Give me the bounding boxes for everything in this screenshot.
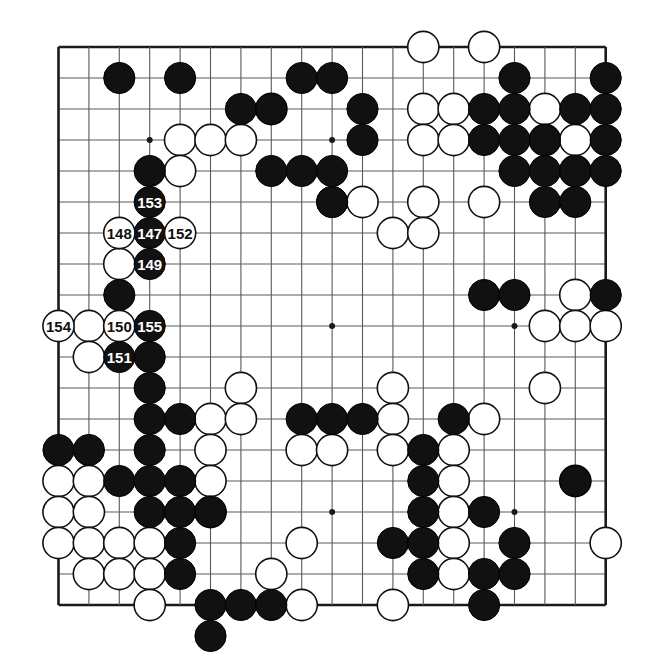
numbered-move-150[interactable]: 150 xyxy=(104,310,135,341)
white-stone[interactable] xyxy=(438,93,469,124)
white-stone[interactable] xyxy=(225,372,256,403)
black-stone[interactable] xyxy=(529,186,560,217)
white-stone[interactable] xyxy=(560,310,591,341)
white-stone[interactable] xyxy=(225,124,256,155)
white-stone[interactable] xyxy=(408,217,439,248)
black-stone[interactable] xyxy=(469,496,500,527)
white-stone[interactable] xyxy=(438,124,469,155)
white-stone[interactable] xyxy=(43,527,74,558)
white-stone[interactable] xyxy=(104,248,135,279)
black-stone[interactable] xyxy=(134,434,165,465)
white-stone[interactable] xyxy=(438,558,469,589)
black-stone[interactable] xyxy=(165,496,196,527)
numbered-move-154[interactable]: 154 xyxy=(43,310,74,341)
black-stone[interactable] xyxy=(317,155,348,186)
white-stone[interactable] xyxy=(469,31,500,62)
numbered-move-155[interactable]: 155 xyxy=(134,310,165,341)
black-stone[interactable] xyxy=(347,403,378,434)
white-stone[interactable] xyxy=(408,31,439,62)
white-stone[interactable] xyxy=(377,403,408,434)
white-stone[interactable] xyxy=(73,527,104,558)
black-stone[interactable] xyxy=(134,403,165,434)
black-stone[interactable] xyxy=(317,186,348,217)
white-stone[interactable] xyxy=(590,310,621,341)
numbered-move-153[interactable]: 153 xyxy=(134,186,165,217)
black-stone[interactable] xyxy=(134,372,165,403)
black-stone[interactable] xyxy=(499,279,530,310)
black-stone[interactable] xyxy=(195,589,226,620)
white-stone[interactable] xyxy=(347,186,378,217)
numbered-move-151[interactable]: 151 xyxy=(104,341,135,372)
numbered-move-148[interactable]: 148 xyxy=(104,217,135,248)
black-stone[interactable] xyxy=(469,124,500,155)
white-stone[interactable] xyxy=(286,434,317,465)
black-stone[interactable] xyxy=(499,527,530,558)
white-stone[interactable] xyxy=(469,403,500,434)
white-stone[interactable] xyxy=(225,403,256,434)
white-stone[interactable] xyxy=(165,155,196,186)
black-stone[interactable] xyxy=(104,279,135,310)
black-stone[interactable] xyxy=(529,155,560,186)
black-stone[interactable] xyxy=(590,62,621,93)
black-stone[interactable] xyxy=(590,93,621,124)
black-stone[interactable] xyxy=(317,62,348,93)
black-stone[interactable] xyxy=(347,124,378,155)
white-stone[interactable] xyxy=(529,310,560,341)
black-stone[interactable] xyxy=(499,62,530,93)
white-stone[interactable] xyxy=(377,372,408,403)
black-stone[interactable] xyxy=(438,403,469,434)
white-stone[interactable] xyxy=(560,124,591,155)
black-stone[interactable] xyxy=(590,279,621,310)
white-stone[interactable] xyxy=(438,496,469,527)
black-stone[interactable] xyxy=(529,124,560,155)
white-stone[interactable] xyxy=(73,465,104,496)
white-stone[interactable] xyxy=(529,372,560,403)
black-stone[interactable] xyxy=(317,403,348,434)
white-stone[interactable] xyxy=(377,217,408,248)
white-stone[interactable] xyxy=(408,186,439,217)
black-stone[interactable] xyxy=(499,124,530,155)
white-stone[interactable] xyxy=(317,434,348,465)
white-stone[interactable] xyxy=(286,527,317,558)
black-stone[interactable] xyxy=(408,465,439,496)
black-stone[interactable] xyxy=(469,93,500,124)
white-stone[interactable] xyxy=(256,558,287,589)
white-stone[interactable] xyxy=(195,124,226,155)
white-stone[interactable] xyxy=(438,465,469,496)
numbered-move-149[interactable]: 149 xyxy=(134,248,165,279)
white-stone[interactable] xyxy=(377,589,408,620)
black-stone[interactable] xyxy=(43,434,74,465)
black-stone[interactable] xyxy=(134,155,165,186)
white-stone[interactable] xyxy=(286,589,317,620)
black-stone[interactable] xyxy=(256,93,287,124)
white-stone[interactable] xyxy=(43,496,74,527)
black-stone[interactable] xyxy=(225,589,256,620)
black-stone[interactable] xyxy=(286,403,317,434)
white-stone[interactable] xyxy=(73,496,104,527)
black-stone[interactable] xyxy=(560,186,591,217)
white-stone[interactable] xyxy=(104,527,135,558)
black-stone[interactable] xyxy=(590,155,621,186)
white-stone[interactable] xyxy=(408,124,439,155)
white-stone[interactable] xyxy=(377,434,408,465)
black-stone[interactable] xyxy=(104,62,135,93)
black-stone[interactable] xyxy=(469,589,500,620)
black-stone[interactable] xyxy=(256,589,287,620)
black-stone[interactable] xyxy=(165,62,196,93)
white-stone[interactable] xyxy=(134,527,165,558)
off-board-stone[interactable] xyxy=(195,620,226,651)
black-stone[interactable] xyxy=(165,527,196,558)
black-stone[interactable] xyxy=(560,465,591,496)
white-stone[interactable] xyxy=(438,434,469,465)
white-stone[interactable] xyxy=(195,403,226,434)
black-stone[interactable] xyxy=(469,558,500,589)
black-stone[interactable] xyxy=(560,155,591,186)
white-stone[interactable] xyxy=(438,527,469,558)
black-stone[interactable] xyxy=(134,465,165,496)
white-stone[interactable] xyxy=(73,310,104,341)
white-stone[interactable] xyxy=(134,558,165,589)
white-stone[interactable] xyxy=(165,124,196,155)
black-stone[interactable] xyxy=(408,496,439,527)
white-stone[interactable] xyxy=(590,527,621,558)
black-stone[interactable] xyxy=(499,155,530,186)
